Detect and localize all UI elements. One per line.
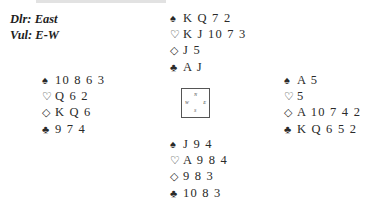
- club-icon: ♣: [170, 185, 183, 201]
- south-clubs: 10 8 3: [183, 186, 221, 200]
- west-spades: 10 8 6 3: [55, 73, 105, 87]
- heart-icon: ♡: [284, 88, 297, 104]
- club-icon: ♣: [42, 121, 55, 137]
- hand-west: ♠10 8 6 3 ♡Q 6 2 ◇K Q 6 ♣9 7 4: [42, 72, 105, 137]
- compass-box: N W E S: [181, 88, 210, 118]
- compass-south: S: [194, 108, 196, 113]
- east-clubs: K Q 6 5 2: [297, 122, 357, 136]
- compass-east: E: [203, 100, 206, 105]
- east-hearts-row: ♡5: [284, 88, 361, 104]
- compass-north: N: [194, 92, 197, 97]
- south-hearts: A 9 8 4: [183, 153, 228, 167]
- compass-west: W: [185, 100, 189, 105]
- diamond-icon: ◇: [42, 104, 55, 120]
- east-clubs-row: ♣K Q 6 5 2: [284, 121, 361, 137]
- south-clubs-row: ♣10 8 3: [170, 185, 228, 201]
- club-icon: ♣: [284, 121, 297, 137]
- west-hearts-row: ♡Q 6 2: [42, 88, 105, 104]
- hand-south: ♠J 9 4 ♡A 9 8 4 ◇9 8 3 ♣10 8 3: [170, 136, 228, 201]
- south-spades: J 9 4: [183, 137, 213, 151]
- spade-icon: ♠: [170, 10, 183, 26]
- south-diamonds-row: ◇9 8 3: [170, 168, 228, 184]
- diamond-icon: ◇: [284, 104, 297, 120]
- west-spades-row: ♠10 8 6 3: [42, 72, 105, 88]
- diamond-icon: ◇: [170, 42, 183, 58]
- hand-north: ♠K Q 7 2 ♡K J 10 7 3 ◇J 5 ♣A J: [170, 10, 246, 75]
- dealer-label: Dlr: East: [10, 11, 59, 27]
- north-diamonds-row: ◇J 5: [170, 42, 246, 58]
- north-diamonds: J 5: [183, 43, 201, 57]
- east-hearts: 5: [297, 89, 304, 103]
- deal-info: Dlr: East Vul: E-W: [10, 11, 59, 43]
- west-clubs: 9 7 4: [55, 122, 86, 136]
- hand-east: ♠A 5 ♡5 ◇A 10 7 4 2 ♣K Q 6 5 2: [284, 72, 361, 137]
- heart-icon: ♡: [170, 152, 183, 168]
- west-clubs-row: ♣9 7 4: [42, 121, 105, 137]
- spade-icon: ♠: [42, 72, 55, 88]
- south-diamonds: 9 8 3: [183, 169, 214, 183]
- heart-icon: ♡: [42, 88, 55, 104]
- spade-icon: ♠: [170, 136, 183, 152]
- spade-icon: ♠: [284, 72, 297, 88]
- west-diamonds: K Q 6: [55, 105, 92, 119]
- diamond-icon: ◇: [170, 168, 183, 184]
- north-hearts: K J 10 7 3: [183, 27, 246, 41]
- vulnerability-label: Vul: E-W: [10, 27, 59, 43]
- east-diamonds-row: ◇A 10 7 4 2: [284, 104, 361, 120]
- north-hearts-row: ♡K J 10 7 3: [170, 26, 246, 42]
- north-clubs-row: ♣A J: [170, 59, 246, 75]
- west-diamonds-row: ◇K Q 6: [42, 104, 105, 120]
- club-icon: ♣: [170, 59, 183, 75]
- heart-icon: ♡: [170, 26, 183, 42]
- north-spades: K Q 7 2: [183, 11, 231, 25]
- west-hearts: Q 6 2: [55, 89, 89, 103]
- east-spades: A 5: [297, 73, 318, 87]
- south-hearts-row: ♡A 9 8 4: [170, 152, 228, 168]
- south-spades-row: ♠J 9 4: [170, 136, 228, 152]
- east-spades-row: ♠A 5: [284, 72, 361, 88]
- north-clubs: A J: [183, 60, 203, 74]
- north-spades-row: ♠K Q 7 2: [170, 10, 246, 26]
- cutoff-heading-text: [36, 0, 166, 3]
- east-diamonds: A 10 7 4 2: [297, 105, 361, 119]
